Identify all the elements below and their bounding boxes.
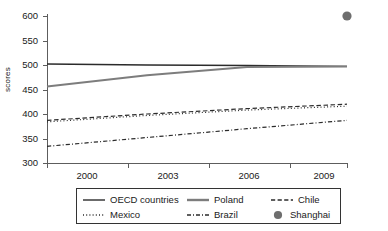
y-axis-tick-label: 400 (22, 108, 38, 119)
y-axis-tick-label: 500 (22, 59, 38, 70)
legend-item-poland[interactable]: Poland (187, 194, 271, 205)
series-line-brazil (47, 120, 347, 146)
legend-item-label: Shanghai (290, 209, 330, 220)
y-axis-title: scores (3, 55, 12, 105)
dash-dot-line-icon (187, 210, 209, 220)
x-axis-tick-label: 2000 (76, 170, 97, 181)
series-line-mexico (47, 106, 347, 122)
data-series-layer (47, 16, 347, 163)
y-axis-tick-label: 550 (22, 35, 38, 46)
x-axis-tick (347, 163, 348, 168)
x-axis-tick (290, 163, 291, 168)
y-axis-tick-label: 300 (22, 157, 38, 168)
x-axis-tick-label: 2006 (238, 170, 259, 181)
legend-item-brazil[interactable]: Brazil (187, 209, 271, 220)
filled-circle-marker-icon (271, 210, 285, 220)
legend-item-label: Brazil (214, 209, 238, 220)
legend-row: Mexico Brazil Shanghai (83, 207, 334, 222)
series-line-chile (47, 104, 347, 120)
x-axis-tick (128, 163, 129, 168)
legend-item-oecd-countries[interactable]: OECD countries (83, 194, 187, 205)
x-axis-tick-label: 2009 (313, 170, 334, 181)
y-axis-tick-label: 350 (22, 133, 38, 144)
x-axis-tick (209, 163, 210, 168)
legend-item-label: Poland (214, 194, 244, 205)
legend-row: OECD countries Poland Chile (83, 192, 334, 207)
legend-item-mexico[interactable]: Mexico (83, 209, 187, 220)
dashed-line-icon (271, 195, 293, 205)
legend-item-label: Mexico (110, 209, 140, 220)
chart-figure: scores 600 550 500 450 400 350 300 (0, 0, 388, 231)
x-axis-tick-label: 2003 (157, 170, 178, 181)
series-line-poland (47, 66, 347, 86)
y-axis-tick-label: 600 (22, 10, 38, 21)
legend-item-chile[interactable]: Chile (271, 194, 320, 205)
plot-area: 600 550 500 450 400 350 300 2000 2003 20… (47, 16, 347, 163)
dotted-line-icon (83, 210, 105, 220)
data-point-shanghai (342, 11, 351, 20)
x-axis-tick (47, 163, 48, 168)
legend-item-shanghai[interactable]: Shanghai (271, 209, 330, 220)
solid-line-icon (83, 195, 105, 205)
legend-item-label: OECD countries (110, 194, 179, 205)
y-axis-tick-label: 450 (22, 84, 38, 95)
chart-legend: OECD countries Poland Chile Mexico (76, 188, 341, 224)
legend-item-label: Chile (298, 194, 320, 205)
x-axis-spine (47, 163, 348, 164)
thick-solid-line-icon (187, 195, 209, 205)
